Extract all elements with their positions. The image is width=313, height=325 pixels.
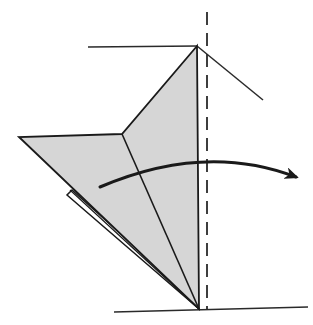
bottom-guide-line [114,307,308,312]
top-left-guide-line [88,46,197,47]
paper-shape [19,46,199,309]
origami-diagram [0,0,313,325]
diagram-svg [0,0,313,325]
